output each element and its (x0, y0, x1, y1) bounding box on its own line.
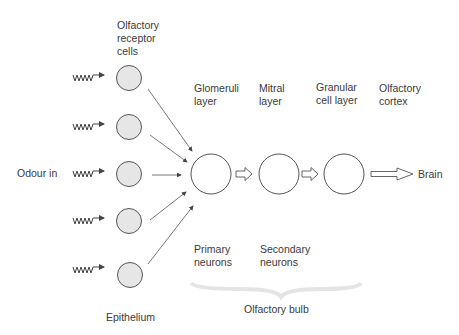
granular-layer-label: Granular cell layer (316, 81, 357, 107)
odour-stimulus-arrows (73, 75, 104, 273)
secondary-neurons-label: Secondary neurons (260, 243, 310, 269)
mitral-circle (259, 154, 299, 194)
olfactory-bulb-brace (191, 283, 361, 297)
olfactory-cortex-label: Olfactory cortex (379, 82, 421, 108)
bulb-neurons (191, 154, 364, 194)
epithelium-label: Epithelium (106, 311, 155, 324)
primary-neurons-label: Primary neurons (194, 243, 232, 269)
olfactory-pathway-diagram (0, 0, 459, 335)
glomeruli-layer-label: Glomeruli layer (194, 82, 239, 108)
receptor-cells (117, 66, 143, 288)
mitral-layer-label: Mitral layer (259, 82, 285, 108)
odour-in-label: Odour in (17, 167, 57, 180)
olfactory-bulb-label: Olfactory bulb (244, 303, 309, 316)
brain-label: Brain (418, 168, 443, 181)
convergence-arrows (148, 89, 193, 264)
granular-circle (324, 154, 364, 194)
glomeruli-circle (191, 154, 231, 194)
receptor-cells-label: Olfactory receptor cells (117, 19, 159, 58)
